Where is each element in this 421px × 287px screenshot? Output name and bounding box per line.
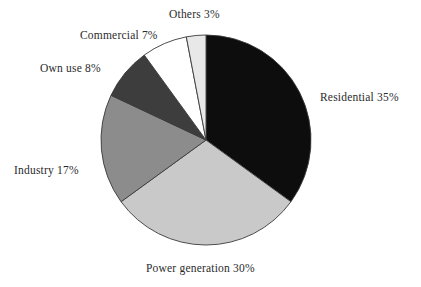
slice-label-others: Others 3% bbox=[169, 9, 220, 21]
pie-chart-canvas bbox=[0, 0, 421, 287]
pie-slices-group bbox=[101, 35, 311, 245]
slice-label-industry: Industry 17% bbox=[14, 165, 79, 177]
slice-label-residential: Residential 35% bbox=[320, 92, 399, 104]
pie-chart-figure: Residential 35% Power generation 30% Ind… bbox=[0, 0, 421, 287]
slice-label-commercial: Commercial 7% bbox=[80, 30, 158, 42]
slice-label-power-generation: Power generation 30% bbox=[146, 263, 255, 275]
slice-label-own-use: Own use 8% bbox=[40, 63, 101, 75]
